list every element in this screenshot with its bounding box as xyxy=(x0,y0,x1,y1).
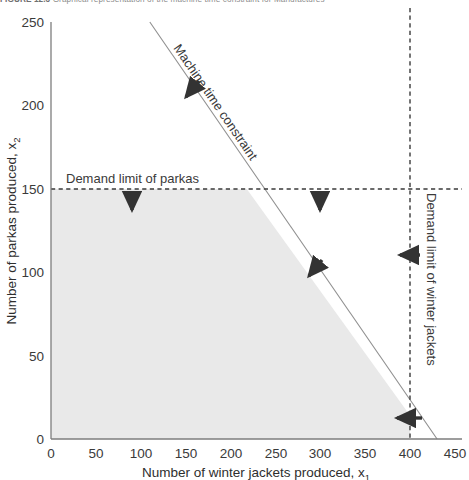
x-tick-label: 100 xyxy=(130,446,153,461)
x-tick-label: 250 xyxy=(265,446,288,461)
demand-limit-winter-jackets-label: Demand limit of winter jackets xyxy=(424,193,439,366)
y-tick-label: 100 xyxy=(21,265,44,280)
x-tick-label: 300 xyxy=(309,446,332,461)
x-tick-label: 350 xyxy=(354,446,377,461)
machine-time-constraint-label: Machine time constraint xyxy=(171,41,261,163)
y-tick-label: 150 xyxy=(21,182,44,197)
chart-plot-area: 250 200 150 100 50 0 0 50 100 150 200 25… xyxy=(0,0,469,480)
y-tick-label: 250 xyxy=(21,15,44,30)
demand-limit-parkas-label: Demand limit of parkas xyxy=(66,171,199,186)
x-tick-label: 200 xyxy=(220,446,243,461)
x-axis-title: Number of winter jackets produced, x1 xyxy=(142,465,370,480)
y-tick-label: 50 xyxy=(29,349,44,364)
feasible-region-shading xyxy=(51,189,410,439)
y-axis-ticks: 250 200 150 100 50 0 xyxy=(21,15,44,447)
x-tick-label: 0 xyxy=(47,446,55,461)
y-tick-label: 0 xyxy=(36,432,44,447)
x-axis-ticks: 0 50 100 150 200 250 300 350 400 450 xyxy=(47,446,466,461)
x-tick-label: 50 xyxy=(88,446,103,461)
x-tick-label: 150 xyxy=(175,446,198,461)
x-tick-label: 450 xyxy=(444,446,467,461)
y-axis-title: Number of parkas produced, x2 xyxy=(4,138,22,325)
y-tick-label: 200 xyxy=(21,98,44,113)
x-tick-label: 400 xyxy=(399,446,422,461)
